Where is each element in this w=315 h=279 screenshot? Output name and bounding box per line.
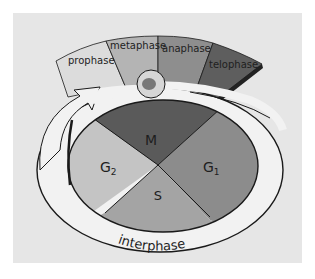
m-label: M: [145, 132, 157, 148]
cell-cycle-diagram: prophase metaphase anaphase telophase M …: [0, 0, 315, 279]
telophase-label: telophase: [209, 59, 258, 70]
prophase-label: prophase: [68, 55, 115, 66]
anaphase-label: anaphase: [162, 43, 211, 54]
cell-icon: [137, 70, 165, 98]
s-label: S: [154, 188, 162, 203]
metaphase-label: metaphase: [110, 40, 166, 51]
